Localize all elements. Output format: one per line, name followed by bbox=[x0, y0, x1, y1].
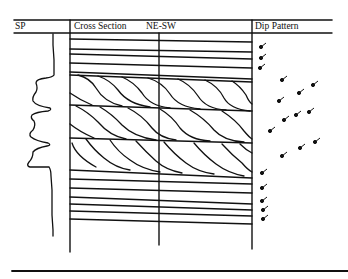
tadpole-icon bbox=[298, 144, 305, 150]
upper-bedding-lines bbox=[70, 39, 252, 79]
tadpole-icon bbox=[260, 184, 267, 190]
tadpole-icon bbox=[294, 111, 301, 117]
dip-tadpoles bbox=[258, 43, 320, 221]
cross-beds-set-3 bbox=[72, 139, 252, 176]
tadpole-icon bbox=[260, 169, 267, 175]
tadpole-icon bbox=[313, 138, 320, 144]
tadpole-icon bbox=[280, 152, 287, 158]
tadpole-icon bbox=[277, 97, 284, 103]
cross-beds-set-2 bbox=[70, 106, 252, 142]
tadpole-icon bbox=[259, 43, 266, 49]
tadpole-icon bbox=[311, 81, 318, 87]
tadpole-icon bbox=[258, 64, 265, 70]
sp-log-curve bbox=[28, 34, 54, 236]
tadpole-icon bbox=[297, 89, 304, 95]
tadpole-icon bbox=[280, 76, 287, 82]
tadpole-icon bbox=[260, 197, 267, 203]
tadpole-icon bbox=[282, 116, 289, 122]
well-log-diagram bbox=[0, 0, 348, 279]
tadpole-icon bbox=[259, 54, 266, 60]
tadpole-icon bbox=[268, 127, 275, 133]
tadpole-icon bbox=[261, 206, 268, 212]
tadpole-icon bbox=[307, 108, 314, 114]
lower-bedding-lines bbox=[70, 179, 252, 224]
tadpole-icon bbox=[261, 215, 268, 221]
